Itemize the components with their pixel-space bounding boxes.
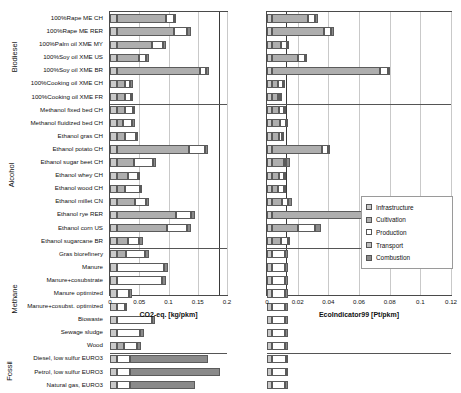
group-separator bbox=[267, 353, 451, 354]
stacked-bar[interactable] bbox=[110, 27, 191, 35]
stacked-bar[interactable] bbox=[110, 80, 133, 88]
stacked-bar[interactable] bbox=[267, 198, 292, 206]
bar-segment-combustion bbox=[137, 342, 141, 350]
stacked-bar[interactable] bbox=[110, 106, 135, 114]
stacked-bar[interactable] bbox=[267, 276, 288, 284]
stacked-bar[interactable] bbox=[267, 54, 307, 62]
row-label: Natural gas, EURO3 bbox=[12, 378, 106, 391]
stacked-bar[interactable] bbox=[267, 119, 288, 127]
stacked-bar[interactable] bbox=[110, 54, 149, 62]
stacked-bar[interactable] bbox=[110, 185, 142, 193]
bar-segment-combustion bbox=[388, 67, 390, 75]
stacked-bar[interactable] bbox=[267, 263, 288, 271]
x-axis-title-left: CO2-eq. [kg/pkm] bbox=[110, 311, 227, 318]
bar-segment-cultivation bbox=[117, 54, 139, 62]
bar-segment-combustion bbox=[205, 145, 207, 153]
bar-segment-production bbox=[124, 342, 137, 350]
stacked-bar[interactable] bbox=[267, 329, 288, 337]
stacked-bar[interactable] bbox=[110, 381, 195, 389]
bar-segment-infrastructure bbox=[110, 54, 117, 62]
bar-segment-infrastructure bbox=[110, 198, 117, 206]
legend-label: Infrastructure bbox=[376, 204, 414, 211]
stacked-bar[interactable] bbox=[267, 172, 286, 180]
stacked-bar[interactable] bbox=[267, 67, 390, 75]
stacked-bar[interactable] bbox=[110, 289, 132, 297]
bar-row bbox=[267, 130, 451, 143]
stacked-bar[interactable] bbox=[267, 185, 286, 193]
row-label: Petrol, low sulfur EURO3 bbox=[12, 365, 106, 378]
stacked-bar[interactable] bbox=[110, 119, 135, 127]
bar-row bbox=[110, 38, 227, 51]
bar-row bbox=[110, 51, 227, 64]
stacked-bar[interactable] bbox=[267, 41, 289, 49]
stacked-bar[interactable] bbox=[267, 145, 330, 153]
stacked-bar[interactable] bbox=[110, 250, 149, 258]
stacked-bar[interactable] bbox=[110, 329, 144, 337]
bar-segment-cultivation bbox=[272, 41, 280, 49]
legend-swatch-production bbox=[366, 229, 372, 235]
bar-segment-production bbox=[272, 250, 285, 258]
bar-segment-combustion bbox=[139, 237, 143, 245]
stacked-bar[interactable] bbox=[110, 224, 191, 232]
stacked-bar[interactable] bbox=[110, 145, 208, 153]
stacked-bar[interactable] bbox=[267, 27, 334, 35]
bar-segment-production bbox=[123, 119, 131, 127]
bar-row bbox=[110, 104, 227, 117]
bar-segment-combustion bbox=[287, 41, 289, 49]
stacked-bar[interactable] bbox=[110, 132, 138, 140]
stacked-bar[interactable] bbox=[110, 355, 208, 363]
bar-row bbox=[110, 235, 227, 248]
stacked-bar[interactable] bbox=[267, 342, 288, 350]
stacked-bar[interactable] bbox=[110, 237, 143, 245]
legend-item[interactable]: Infrastructure bbox=[366, 201, 448, 214]
legend-item[interactable]: Combustion bbox=[366, 251, 448, 264]
bar-row bbox=[267, 353, 451, 366]
stacked-bar[interactable] bbox=[110, 342, 141, 350]
bar-segment-production bbox=[189, 145, 205, 153]
legend-item[interactable]: Production bbox=[366, 226, 448, 239]
bar-segment-combustion bbox=[132, 119, 135, 127]
stacked-bar[interactable] bbox=[267, 93, 282, 101]
stacked-bar[interactable] bbox=[267, 237, 290, 245]
stacked-bar[interactable] bbox=[110, 368, 220, 376]
stacked-bar[interactable] bbox=[110, 14, 176, 22]
stacked-bar[interactable] bbox=[110, 211, 195, 219]
bar-segment-infrastructure bbox=[110, 80, 117, 88]
stacked-bar[interactable] bbox=[267, 368, 288, 376]
group-separator bbox=[110, 353, 227, 354]
stacked-bar[interactable] bbox=[110, 263, 168, 271]
bar-segment-production bbox=[117, 355, 130, 363]
stacked-bar[interactable] bbox=[267, 80, 285, 88]
bar-segment-cultivation bbox=[117, 158, 134, 166]
bar-segment-combustion bbox=[285, 342, 287, 350]
stacked-bar[interactable] bbox=[267, 381, 288, 389]
bar-segment-cultivation bbox=[272, 224, 297, 232]
stacked-bar[interactable] bbox=[110, 158, 156, 166]
stacked-bar[interactable] bbox=[110, 93, 133, 101]
bar-segment-production bbox=[281, 237, 288, 245]
stacked-bar[interactable] bbox=[110, 198, 149, 206]
bar-segment-production bbox=[117, 329, 140, 337]
legend-item[interactable]: Transport bbox=[366, 239, 448, 252]
stacked-bar[interactable] bbox=[110, 172, 140, 180]
stacked-bar[interactable] bbox=[110, 67, 209, 75]
legend-item[interactable]: Cultivation bbox=[366, 214, 448, 227]
stacked-bar[interactable] bbox=[267, 158, 290, 166]
bar-segment-combustion bbox=[286, 355, 288, 363]
bar-row bbox=[110, 353, 227, 366]
stacked-bar[interactable] bbox=[110, 276, 166, 284]
stacked-bar[interactable] bbox=[267, 250, 288, 258]
stacked-bar[interactable] bbox=[267, 289, 288, 297]
x-tick-label: 0.1 bbox=[164, 298, 173, 305]
bar-row bbox=[267, 38, 451, 51]
bar-segment-combustion bbox=[187, 224, 192, 232]
stacked-bar[interactable] bbox=[110, 41, 166, 49]
stacked-bar[interactable] bbox=[267, 106, 286, 114]
stacked-bar[interactable] bbox=[267, 355, 288, 363]
bar-segment-production bbox=[135, 198, 147, 206]
bar-segment-cultivation bbox=[117, 145, 189, 153]
stacked-bar[interactable] bbox=[267, 224, 321, 232]
stacked-bar[interactable] bbox=[267, 14, 318, 22]
stacked-bar[interactable] bbox=[267, 132, 284, 140]
